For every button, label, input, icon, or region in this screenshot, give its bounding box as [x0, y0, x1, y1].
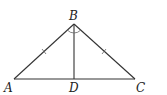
label-c: C [136, 81, 145, 95]
label-d: D [68, 81, 79, 95]
label-b: B [68, 9, 78, 23]
triangle-diagram: B A D C [0, 0, 167, 95]
angle-arc-abd [67, 30, 74, 33]
label-a: A [3, 81, 13, 95]
angle-arc-dbc [74, 30, 81, 33]
